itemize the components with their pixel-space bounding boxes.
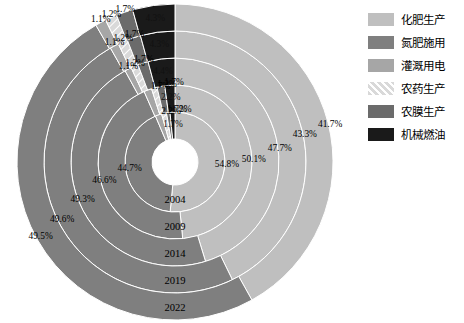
legend-label: 化肥生产	[401, 11, 445, 27]
legend: 化肥生产 氮肥施用 灌溉用电 农药生产 农膜生产 机械燃油	[368, 8, 464, 146]
legend-swatch-danfeishiyong	[368, 36, 394, 49]
legend-item[interactable]: 农膜生产	[368, 100, 464, 122]
segment-value-label: 1.7%	[163, 119, 183, 129]
segment-value-label: 4.3%	[149, 39, 169, 49]
ring-year-label: 2004	[164, 194, 186, 205]
segment-value-label: 50.1%	[242, 154, 266, 164]
legend-swatch-huafeishengchan	[368, 13, 394, 26]
segment-value-label: 47.7%	[268, 143, 292, 153]
legend-label: 农药生产	[401, 80, 445, 96]
segment-value-label: 4.4%	[153, 66, 173, 76]
legend-label: 灌溉用电	[401, 57, 445, 73]
ring-year-label: 2022	[164, 302, 185, 313]
legend-item[interactable]: 农药生产	[368, 77, 464, 99]
segment-value-label: 4.3%	[146, 13, 166, 23]
segment-value-label: 46.6%	[92, 175, 116, 185]
segment-value-label: 49.3%	[70, 194, 94, 204]
segment-value-label: 49.6%	[50, 214, 74, 224]
segment-value-label: 41.7%	[318, 119, 342, 129]
rings-group	[17, 4, 333, 320]
segment-value-label: 44.7%	[117, 163, 141, 173]
segment-value-label: 1.7%	[125, 29, 145, 39]
legend-label: 农膜生产	[401, 103, 445, 119]
legend-item[interactable]: 灌溉用电	[368, 54, 464, 76]
segment-value-label: 2.2%	[161, 92, 181, 102]
legend-item[interactable]: 化肥生产	[368, 8, 464, 30]
ring-year-label: 2009	[164, 221, 185, 232]
legend-label: 机械燃油	[401, 126, 445, 142]
segment-value-label: 1.2%	[172, 104, 192, 114]
legend-swatch-guangaiyongdian	[368, 59, 394, 72]
legend-swatch-nongyaoshengchan	[368, 82, 394, 95]
legend-item[interactable]: 机械燃油	[368, 123, 464, 145]
nested-donut-svg: 54.8%44.7%2.2%1.7%1.2%1.7%200450.1%46.6%…	[0, 0, 350, 323]
ring-year-label: 2014	[164, 248, 186, 259]
segment-value-label: 49.5%	[28, 231, 52, 241]
segment-value-label: 54.8%	[215, 159, 239, 169]
sunburst-chart: 54.8%44.7%2.2%1.7%1.2%1.7%200450.1%46.6%…	[0, 0, 350, 323]
segment-value-label: 1.7%	[134, 54, 154, 64]
legend-label: 氮肥施用	[401, 34, 445, 50]
segment-value-label: 43.3%	[293, 129, 317, 139]
segment-value-label: 1.7%	[115, 4, 135, 14]
ring-year-label: 2019	[164, 275, 185, 286]
legend-item[interactable]: 氮肥施用	[368, 31, 464, 53]
segment-value-label: 1.7%	[164, 77, 184, 87]
legend-swatch-jixierany	[368, 128, 394, 141]
legend-swatch-nongmoshengchan	[368, 105, 394, 118]
